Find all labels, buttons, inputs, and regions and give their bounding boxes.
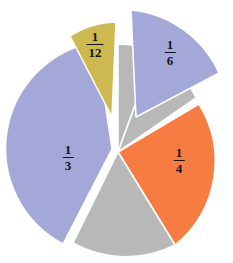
pie-chart-figure: 1 6 1 4 1 3 1 12 [0,0,233,263]
pie-chart-canvas [0,0,233,263]
